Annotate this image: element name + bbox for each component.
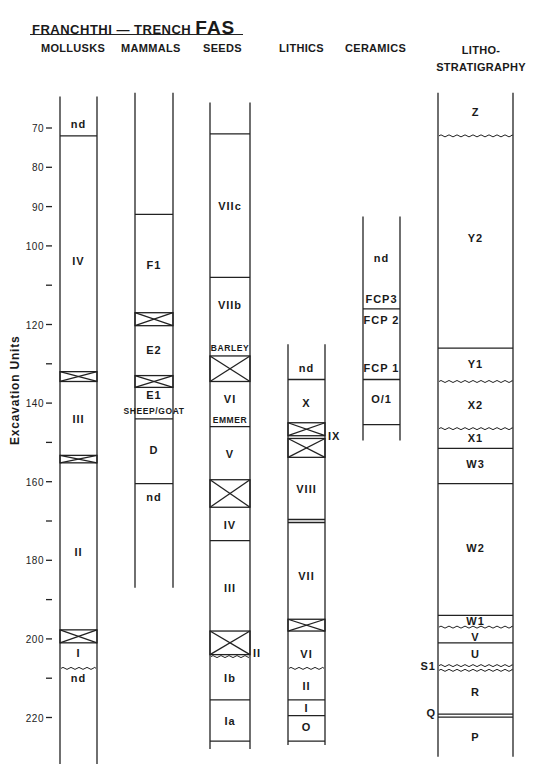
mammals-unit-label: nd	[146, 491, 161, 503]
seeds-unit-label: V	[226, 448, 234, 460]
lithics-unit-label: X	[302, 397, 310, 409]
y-axis-tick-label: 200	[26, 634, 44, 645]
mammals-unit-label: E1	[146, 389, 161, 401]
litho-stratigraphy-unit-label: Y1	[468, 358, 483, 370]
seeds-unit-label: VIIc	[218, 200, 242, 212]
litho-stratigraphy-unit-label: Q	[426, 707, 436, 719]
lithics-unit-label: IX	[328, 430, 340, 442]
mollusks-unconformity-line	[61, 667, 96, 669]
seeds-unit-label: VIIb	[218, 299, 242, 311]
mollusks-unit-label: nd	[71, 118, 86, 130]
ceramics-unit-label: FCP3	[365, 293, 397, 305]
lithics-unit-label: II	[302, 680, 310, 692]
lithics-unit-label: VI	[300, 648, 312, 660]
litho-stratigraphy-unconformity-line	[439, 428, 512, 430]
y-axis-tick-label: 140	[26, 398, 44, 409]
lithics-unit-label: I	[304, 702, 308, 714]
litho-stratigraphy-unconformity-line	[439, 135, 512, 137]
y-axis-tick-label: 160	[26, 477, 44, 488]
litho-stratigraphy-unconformity-line	[439, 669, 512, 671]
mammals-unit-label: SHEEP/GOAT	[123, 406, 184, 416]
seeds-unit-label: IV	[224, 519, 236, 531]
seeds-unit-label: VI	[224, 393, 236, 405]
ceramics-unit-label: FCP 2	[364, 314, 400, 326]
litho-stratigraphy-unit-label: Y2	[468, 232, 483, 244]
seeds-unit-label: III	[224, 582, 236, 594]
litho-stratigraphy-unit-label: P	[471, 731, 479, 743]
seeds-unit-label: BARLEY	[211, 343, 250, 353]
y-axis-tick-label: 70	[32, 123, 44, 134]
litho-stratigraphy-unit-label: R	[471, 686, 480, 698]
litho-stratigraphy-unit-label: S1	[421, 660, 436, 672]
litho-stratigraphy-unit-label: W1	[466, 615, 485, 627]
litho-stratigraphy-unit-label: U	[471, 648, 480, 660]
seeds-unconformity-line	[211, 656, 249, 658]
ceramics-unit-label: O/1	[371, 393, 392, 405]
litho-stratigraphy-unit-label: V	[471, 631, 479, 643]
y-axis-tick-label: 120	[26, 320, 44, 331]
litho-stratigraphy-unit-label: Z	[472, 106, 480, 118]
litho-stratigraphy-unit-label: X1	[468, 432, 483, 444]
y-axis-tick-label: 90	[32, 202, 44, 213]
mollusks-unit-label: II	[74, 546, 82, 558]
mammals-unit-label: D	[150, 444, 159, 456]
y-axis-tick-label: 220	[26, 713, 44, 724]
mollusks-unit-label: nd	[71, 672, 86, 684]
lithics-unit-label: O	[302, 721, 312, 733]
stratigraphy-chart: 708090100120140160180200220ndIVIIIIIIndF…	[0, 0, 535, 764]
seeds-unit-label: Ib	[224, 672, 236, 684]
litho-stratigraphy-unconformity-line	[439, 380, 512, 382]
ceramics-unit-label: nd	[374, 252, 389, 264]
mollusks-unit-label: IV	[72, 255, 84, 267]
litho-stratigraphy-unit-label: W3	[466, 458, 485, 470]
y-axis-tick-label: 180	[26, 555, 44, 566]
seeds-unit-label: Ia	[224, 715, 235, 727]
seeds-unit-label: II	[253, 647, 261, 659]
litho-stratigraphy-unconformity-line	[439, 665, 512, 667]
lithics-unit-label: nd	[299, 362, 314, 374]
litho-stratigraphy-unit-label: X2	[468, 399, 483, 411]
litho-stratigraphy-unit-label: W2	[466, 542, 485, 554]
lithics-unit-label: VIII	[296, 483, 317, 495]
lithics-unconformity-line	[289, 667, 324, 669]
mammals-unit-label: F1	[147, 259, 162, 271]
y-axis-tick-label: 80	[32, 162, 44, 173]
lithics-unit-label: VII	[298, 570, 314, 582]
mollusks-unit-label: I	[76, 647, 80, 659]
ceramics-unit-label: FCP 1	[364, 362, 400, 374]
y-axis-tick-label: 100	[26, 241, 44, 252]
mollusks-unit-label: III	[72, 413, 84, 425]
seeds-unit-label: EMMER	[213, 415, 248, 425]
mammals-unit-label: E2	[146, 344, 161, 356]
